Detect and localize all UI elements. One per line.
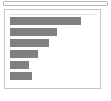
- bar-3[interactable]: [10, 39, 49, 47]
- bar-row[interactable]: Bar 1: [10, 16, 96, 27]
- bar-row[interactable]: Bar 6: [10, 71, 96, 82]
- bar-1[interactable]: [10, 17, 81, 25]
- bar-4[interactable]: [10, 50, 38, 58]
- bar-row[interactable]: Bar 5: [10, 60, 96, 71]
- bar-row[interactable]: Bar 3: [10, 38, 96, 49]
- bar-row[interactable]: Bar 2: [10, 27, 96, 38]
- chart-card: Bar 1 Bar 2 Bar 3 Bar 4 Bar 5 Bar 6: [4, 9, 101, 89]
- bar-row[interactable]: Bar 4: [10, 49, 96, 60]
- window-titlebar[interactable]: [3, 1, 108, 6]
- screenshot-root: Bar 1 Bar 2 Bar 3 Bar 4 Bar 5 Bar 6: [0, 0, 111, 101]
- card-top-rule: [10, 14, 95, 15]
- bar-2[interactable]: [10, 28, 57, 36]
- bar-6[interactable]: [10, 72, 32, 80]
- bar-chart-plot: Bar 1 Bar 2 Bar 3 Bar 4 Bar 5 Bar 6: [10, 16, 96, 84]
- bar-5[interactable]: [10, 61, 29, 69]
